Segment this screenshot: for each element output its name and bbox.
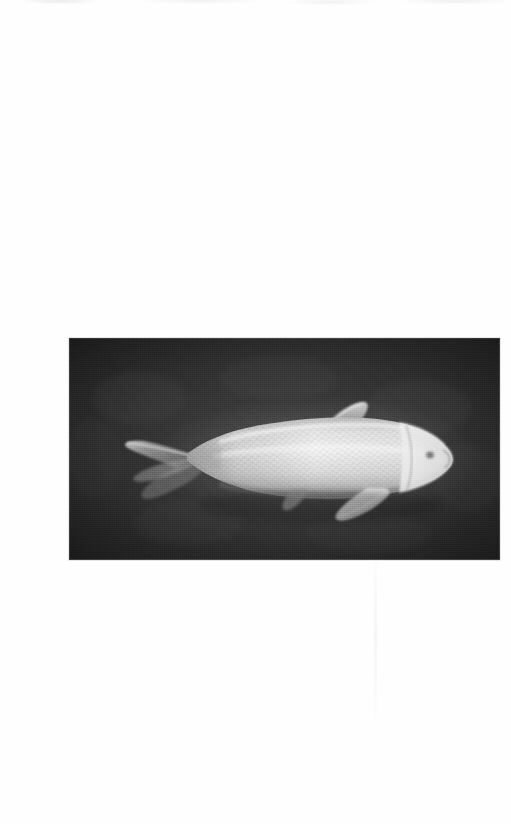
koi-carp-photograph: Black and white photograph of a pale pla… xyxy=(69,338,500,560)
koi-carp-illustration xyxy=(69,338,500,560)
scan-artifact-right-band xyxy=(374,540,377,730)
fish-underwater-shadow xyxy=(199,490,439,522)
scan-artifact-top xyxy=(0,0,511,9)
eye-pupil xyxy=(428,453,432,457)
scanned-page: Black and white photograph of a pale pla… xyxy=(0,0,511,824)
